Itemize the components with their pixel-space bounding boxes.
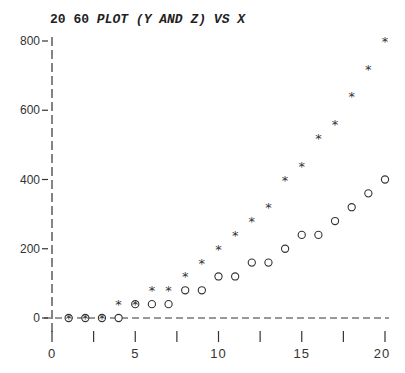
data-point-y [298, 231, 305, 238]
scatter-plot: 020040060080005101520*******************… [0, 0, 405, 373]
x-tick-label: 15 [294, 346, 310, 361]
data-point-y [282, 245, 289, 252]
data-point-z: * [165, 283, 172, 298]
data-point-y [165, 301, 172, 308]
data-point-y [365, 190, 372, 197]
x-tick-label: 20 [374, 346, 390, 361]
data-point-y [115, 314, 122, 321]
x-tick-label: 5 [131, 346, 139, 361]
data-point-y [315, 231, 322, 238]
data-point-z: * [199, 256, 206, 271]
data-point-z: * [132, 297, 139, 312]
data-point-z: * [348, 89, 355, 104]
x-tick-label: 10 [210, 346, 226, 361]
data-point-z: * [299, 159, 306, 174]
data-point-y [381, 176, 388, 183]
data-point-y [182, 287, 189, 294]
data-point-z: * [215, 242, 222, 257]
y-tick-label: 200 [20, 242, 40, 256]
data-point-z: * [115, 297, 122, 312]
x-tick-label: 0 [48, 346, 56, 361]
data-point-y [331, 217, 338, 224]
y-tick-label: 400 [20, 173, 40, 187]
y-tick-label: 600 [20, 103, 40, 117]
data-point-y [265, 259, 272, 266]
data-point-z: * [282, 173, 289, 188]
data-point-z: * [232, 228, 239, 243]
data-point-y [198, 287, 205, 294]
data-point-z: * [332, 117, 339, 132]
data-point-y [215, 273, 222, 280]
y-tick-label: 0 [33, 311, 40, 325]
data-point-z: * [365, 62, 372, 77]
data-point-z: * [82, 311, 89, 326]
data-point-z: * [249, 214, 256, 229]
data-point-y [348, 204, 355, 211]
data-point-z: * [182, 269, 189, 284]
data-point-z: * [382, 34, 389, 49]
data-point-z: * [99, 311, 106, 326]
data-point-z: * [65, 311, 72, 326]
y-tick-label: 800 [20, 34, 40, 48]
data-point-z: * [265, 200, 272, 215]
data-point-y [248, 259, 255, 266]
data-point-y [232, 273, 239, 280]
data-point-z: * [315, 131, 322, 146]
data-point-y [148, 301, 155, 308]
data-point-z: * [149, 283, 156, 298]
